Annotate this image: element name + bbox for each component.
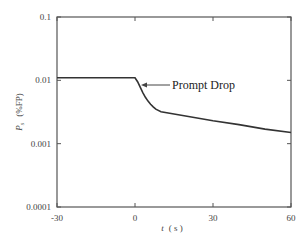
- x-tick-label: 60: [287, 213, 297, 223]
- y-tick-label: 0.1: [40, 12, 51, 22]
- prompt-drop-annotation: Prompt Drop: [141, 78, 235, 92]
- y-tick-label: 0.01: [35, 75, 51, 85]
- plot-frame: [57, 17, 291, 207]
- x-axis-ticks: [57, 17, 291, 207]
- chart: -3003060 0.00010.0010.010.1 Prompt Drop …: [0, 0, 306, 241]
- x-axis-label-var: t: [161, 223, 164, 233]
- y-axis-label: Ps(%FP): [14, 93, 25, 131]
- y-tick-label: 0.0001: [26, 202, 51, 212]
- y-axis-label-unit: (%FP): [14, 93, 24, 117]
- y-axis-ticks: [57, 17, 291, 207]
- x-tick-label: 0: [133, 213, 138, 223]
- x-axis-label-unit: ( s ): [169, 223, 183, 233]
- y-axis-tick-labels: 0.00010.0010.010.1: [26, 12, 51, 212]
- y-tick-label: 0.001: [31, 139, 51, 149]
- arrow-left-icon: [141, 83, 147, 88]
- y-axis-label-sub: s: [19, 122, 25, 125]
- svg-text:Ps(%FP): Ps(%FP): [14, 93, 25, 131]
- x-tick-label: 30: [209, 213, 219, 223]
- x-tick-label: -30: [51, 213, 63, 223]
- svg-text:t( s ): t( s ): [161, 223, 183, 233]
- x-axis-tick-labels: -3003060: [51, 213, 296, 223]
- annotation-text: Prompt Drop: [172, 78, 235, 92]
- x-axis-label: t( s ): [161, 223, 183, 233]
